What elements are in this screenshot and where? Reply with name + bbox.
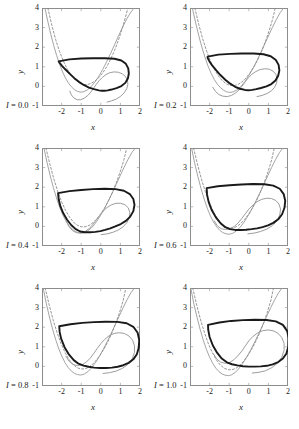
y-tick-label: 4	[183, 284, 187, 292]
x-tick-label: 0	[247, 108, 251, 116]
y-tick-label: 1	[35, 343, 39, 351]
x-tick-label: 1	[266, 108, 270, 116]
plot-panel-2: yxI = 0.2-101234-2-1012	[152, 0, 299, 143]
plot-panel-6: yxI = 1.0-101234-2-1012	[152, 280, 299, 423]
y-tick-label: -1	[32, 242, 39, 250]
curve-canvas	[190, 8, 288, 106]
solid-nullcline-curve	[45, 8, 134, 92]
cubic-nullcline-curve	[48, 8, 128, 85]
y-tick-label: 4	[183, 144, 187, 152]
y-tick-label: 4	[183, 4, 187, 12]
y-tick-label: -1	[32, 102, 39, 110]
cubic-nullcline-curve	[45, 288, 126, 369]
y-tick-label: 1	[183, 63, 187, 71]
y-tick-label: 2	[35, 43, 39, 51]
x-tick-label: 1	[118, 388, 122, 396]
parameter-label: I = 0.0	[6, 100, 29, 110]
curve-canvas	[190, 148, 288, 246]
y-tick-label: 0	[35, 222, 39, 230]
trajectory-curve	[213, 69, 277, 97]
y-tick-label: 0	[183, 222, 187, 230]
y-tick-label: -1	[180, 102, 187, 110]
plot-panel-5: yxI = 0.8-101234-2-1012	[4, 280, 153, 423]
y-tick-label: 2	[35, 183, 39, 191]
y-axis-label: y	[163, 350, 173, 354]
cubic-nullcline-curve	[194, 148, 275, 228]
x-tick-label: 0	[247, 248, 251, 256]
limit-cycle-curve	[59, 322, 139, 368]
x-tick-label: 0	[99, 248, 103, 256]
x-tick-label: -1	[78, 108, 85, 116]
y-tick-label: 2	[183, 183, 187, 191]
x-axis-label: x	[239, 402, 243, 412]
plot-panel-1: yxI = 0.0-101234-2-1012	[4, 0, 153, 143]
plot-area: -101234-2-1012	[42, 8, 140, 106]
parameter-label: I = 0.2	[154, 100, 177, 110]
curve-canvas	[42, 8, 140, 106]
y-tick-label: 2	[35, 323, 39, 331]
x-tick-label: -1	[78, 388, 85, 396]
x-axis-label: x	[91, 262, 95, 272]
y-tick-label: 3	[35, 304, 39, 312]
x-tick-label: -2	[58, 248, 65, 256]
x-tick-label: 1	[266, 248, 270, 256]
y-axis-label: y	[163, 70, 173, 74]
y-tick-label: 3	[35, 164, 39, 172]
y-axis-label: y	[15, 70, 25, 74]
y-tick-label: 0	[35, 362, 39, 370]
plot-area: -101234-2-1012	[190, 148, 288, 246]
y-axis-label: y	[163, 210, 173, 214]
plot-area: -101234-2-1012	[42, 148, 140, 246]
plot-panel-3: yxI = 0.4-101234-2-1012	[4, 140, 153, 283]
cubic-nullcline-curve	[195, 8, 275, 86]
plot-area: -101234-2-1012	[190, 288, 288, 386]
y-tick-label: 4	[35, 144, 39, 152]
y-tick-label: 1	[35, 63, 39, 71]
y-tick-label: 3	[35, 24, 39, 32]
x-tick-label: 0	[247, 388, 251, 396]
x-tick-label: -2	[206, 108, 213, 116]
x-tick-label: 2	[286, 248, 290, 256]
y-axis-label: y	[15, 350, 25, 354]
figure-phase-plane-grid: yxI = 0.0-101234-2-1012yxI = 0.2-101234-…	[0, 0, 299, 429]
y-tick-label: 0	[35, 82, 39, 90]
limit-cycle-curve	[208, 320, 288, 367]
y-tick-label: 1	[183, 343, 187, 351]
x-axis-label: x	[239, 122, 243, 132]
x-axis-label: x	[91, 122, 95, 132]
x-axis-label: x	[239, 262, 243, 272]
parameter-label: I = 1.0	[154, 380, 177, 390]
parameter-label: I = 0.6	[154, 240, 177, 250]
y-tick-label: 3	[183, 164, 187, 172]
x-tick-label: 1	[118, 248, 122, 256]
y-tick-label: -1	[32, 382, 39, 390]
limit-cycle-curve	[207, 184, 286, 230]
y-tick-label: 3	[183, 304, 187, 312]
x-tick-label: 1	[118, 108, 122, 116]
curve-canvas	[190, 288, 288, 386]
plot-area: -101234-2-1012	[42, 288, 140, 386]
y-tick-label: 2	[183, 43, 187, 51]
y-tick-label: 1	[35, 203, 39, 211]
x-tick-label: -2	[206, 248, 213, 256]
x-tick-label: 1	[266, 388, 270, 396]
parameter-label: I = 0.4	[6, 240, 29, 250]
x-tick-label: 2	[138, 388, 142, 396]
x-tick-label: -2	[206, 388, 213, 396]
y-axis-label: y	[15, 210, 25, 214]
curve-canvas	[42, 148, 140, 246]
x-tick-label: -2	[58, 388, 65, 396]
x-tick-label: 0	[99, 388, 103, 396]
x-tick-label: -1	[226, 248, 233, 256]
curve-canvas	[42, 288, 140, 386]
plot-panel-4: yxI = 0.6-101234-2-1012	[152, 140, 299, 283]
parameter-label: I = 0.8	[6, 380, 29, 390]
x-axis-label: x	[91, 402, 95, 412]
x-tick-label: 0	[99, 108, 103, 116]
plot-area: -101234-2-1012	[190, 8, 288, 106]
y-tick-label: -1	[180, 382, 187, 390]
y-tick-label: 0	[183, 82, 187, 90]
limit-cycle-curve	[59, 58, 129, 91]
x-tick-label: 2	[286, 108, 290, 116]
x-tick-label: -2	[58, 108, 65, 116]
